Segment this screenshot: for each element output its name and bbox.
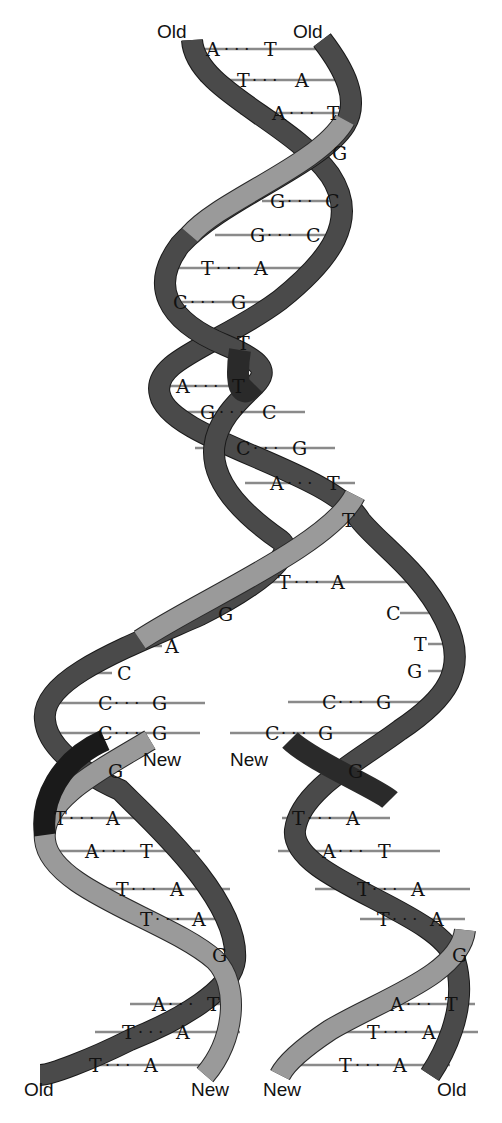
- svg-text:C: C: [117, 662, 132, 684]
- svg-text:T: T: [264, 38, 277, 60]
- svg-text:A: A: [191, 908, 206, 930]
- svg-text:· · ·: · · ·: [287, 192, 312, 211]
- svg-text:· · ·: · · ·: [372, 880, 397, 899]
- svg-text:· · ·: · · ·: [338, 693, 363, 712]
- svg-text:G: G: [152, 692, 167, 714]
- svg-text:G: G: [152, 722, 167, 744]
- label-fork-right-new: New: [230, 749, 268, 770]
- svg-text:T: T: [89, 1054, 102, 1076]
- svg-text:G: G: [318, 722, 333, 744]
- svg-text:T: T: [140, 908, 153, 930]
- svg-text:· · ·: · · ·: [105, 1056, 130, 1075]
- svg-text:A: A: [175, 1021, 190, 1043]
- svg-text:T: T: [377, 908, 390, 930]
- svg-text:T: T: [140, 840, 153, 862]
- svg-text:· · ·: · · ·: [252, 71, 277, 90]
- svg-text:C: C: [322, 691, 337, 713]
- svg-text:· · ·: · · ·: [114, 724, 139, 743]
- svg-text:· · ·: · · ·: [307, 809, 332, 828]
- svg-text:A: A: [253, 257, 268, 279]
- svg-text:C: C: [325, 190, 340, 212]
- svg-text:A: A: [389, 993, 404, 1015]
- svg-text:T: T: [207, 993, 220, 1015]
- svg-text:· · ·: · · ·: [355, 1056, 380, 1075]
- dna-replication-diagram: A · · · T T · · · A A · · · T G G · · · …: [0, 0, 502, 1123]
- svg-text:G: G: [376, 691, 391, 713]
- svg-text:A: A: [151, 993, 166, 1015]
- svg-text:· · ·: · · ·: [281, 724, 306, 743]
- svg-text:· · ·: · · ·: [114, 694, 139, 713]
- svg-text:· · ·: · · ·: [101, 842, 126, 861]
- svg-text:· · ·: · · ·: [287, 474, 312, 493]
- svg-text:T: T: [292, 807, 305, 829]
- svg-text:T: T: [367, 1021, 380, 1043]
- svg-text:C: C: [265, 722, 280, 744]
- fork-bonds: [45, 613, 462, 733]
- svg-text:· · ·: · · ·: [219, 403, 244, 422]
- svg-text:· · ·: · · ·: [392, 910, 417, 929]
- svg-text:A: A: [164, 635, 179, 657]
- svg-text:G: G: [292, 437, 307, 459]
- svg-text:A: A: [429, 908, 444, 930]
- svg-text:T: T: [237, 332, 250, 354]
- svg-text:· · ·: · · ·: [253, 439, 278, 458]
- svg-text:T: T: [232, 375, 245, 397]
- svg-text:A: A: [143, 1054, 158, 1076]
- svg-text:T: T: [445, 993, 458, 1015]
- svg-text:· · ·: · · ·: [294, 573, 319, 592]
- svg-text:T: T: [327, 102, 340, 124]
- svg-text:G: G: [231, 291, 246, 313]
- svg-text:· · ·: · · ·: [190, 293, 215, 312]
- svg-text:G: G: [452, 944, 467, 966]
- svg-text:T: T: [116, 878, 129, 900]
- svg-text:C: C: [173, 291, 188, 313]
- svg-text:· · ·: · · ·: [216, 259, 241, 278]
- svg-text:T: T: [378, 840, 391, 862]
- svg-text:· · ·: · · ·: [406, 995, 431, 1014]
- svg-text:G: G: [250, 224, 265, 246]
- svg-text:A: A: [410, 878, 425, 900]
- svg-text:G: G: [200, 401, 215, 423]
- svg-text:C: C: [98, 692, 113, 714]
- svg-text:G: G: [218, 603, 233, 625]
- svg-text:A: A: [421, 1021, 436, 1043]
- svg-text:· · ·: · · ·: [224, 40, 249, 59]
- svg-text:G: G: [407, 660, 422, 682]
- svg-text:A: A: [321, 840, 336, 862]
- svg-text:T: T: [414, 633, 427, 655]
- svg-text:A: A: [269, 472, 284, 494]
- svg-text:C: C: [236, 437, 251, 459]
- svg-text:T: T: [201, 257, 214, 279]
- svg-text:C: C: [262, 401, 277, 423]
- svg-text:G: G: [348, 760, 363, 782]
- label-bottom-right-new: New: [263, 1079, 301, 1100]
- svg-text:A: A: [169, 878, 184, 900]
- svg-text:· · ·: · · ·: [155, 910, 180, 929]
- svg-text:· · ·: · · ·: [131, 880, 156, 899]
- svg-text:G: G: [270, 190, 285, 212]
- svg-text:T: T: [339, 1054, 352, 1076]
- svg-text:T: T: [357, 878, 370, 900]
- svg-text:· · ·: · · ·: [267, 226, 292, 245]
- svg-text:A: A: [392, 1054, 407, 1076]
- svg-text:· · ·: · · ·: [69, 809, 94, 828]
- svg-text:· · ·: · · ·: [383, 1023, 408, 1042]
- svg-text:T: T: [327, 472, 340, 494]
- svg-text:A: A: [271, 102, 286, 124]
- label-top-left-old: Old: [157, 21, 187, 42]
- svg-text:G: G: [212, 944, 227, 966]
- svg-text:T: T: [237, 69, 250, 91]
- svg-text:A: A: [330, 571, 345, 593]
- label-top-right-old: Old: [293, 21, 323, 42]
- svg-text:· · ·: · · ·: [193, 377, 218, 396]
- svg-text:· · ·: · · ·: [138, 1023, 163, 1042]
- svg-text:C: C: [98, 722, 113, 744]
- label-bottom-right-old: Old: [437, 1079, 467, 1100]
- svg-text:T: T: [278, 571, 291, 593]
- svg-text:A: A: [205, 38, 220, 60]
- svg-text:T: T: [122, 1021, 135, 1043]
- label-fork-left-new: New: [143, 749, 181, 770]
- svg-text:A: A: [84, 840, 99, 862]
- svg-text:G: G: [332, 142, 347, 164]
- svg-text:G: G: [108, 760, 123, 782]
